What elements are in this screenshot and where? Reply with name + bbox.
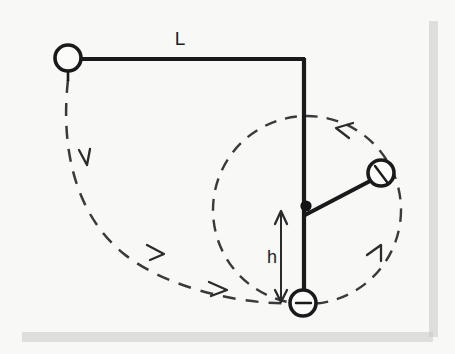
peg-dot	[300, 200, 311, 211]
page-shadow-bottom	[22, 332, 433, 342]
support-pivot-ball	[55, 45, 81, 71]
height-label: h	[267, 247, 277, 267]
length-label: L	[175, 28, 186, 49]
figure-container: L h	[0, 0, 455, 354]
page-shadow-right	[429, 21, 438, 337]
pendulum-diagram: L h	[0, 0, 455, 354]
